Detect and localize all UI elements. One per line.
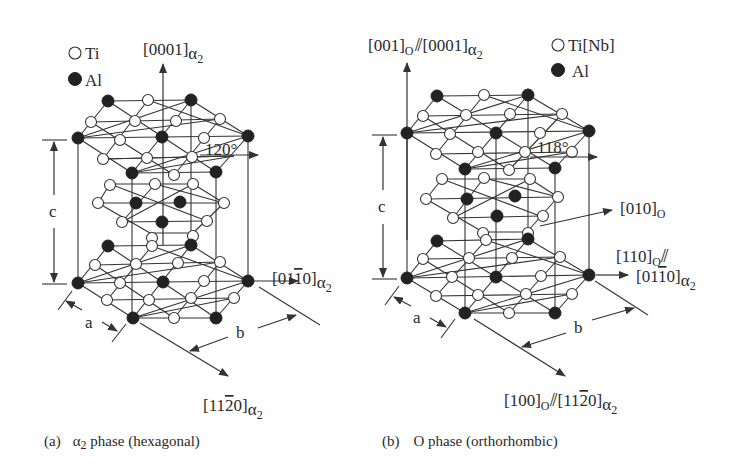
axis-100-label: [100]O⫽[1120]α2 bbox=[504, 391, 617, 417]
axis-001-label: [001]O⫽[0001]α2 bbox=[368, 36, 483, 62]
axis-010-label: [010]O bbox=[620, 199, 666, 221]
dimension-b-a: b bbox=[190, 287, 320, 351]
panel-b-o-orthorhombic: [001]O⫽[0001]α2 Ti[Nb] Al bbox=[368, 36, 696, 450]
dim-b-label: b bbox=[236, 323, 245, 342]
ti-legend-icon bbox=[69, 47, 81, 59]
legend-al-label: Al bbox=[85, 71, 102, 90]
axis-11-20-arrow bbox=[140, 323, 228, 376]
axis-01-10-label-b: [0110]α2 bbox=[636, 267, 696, 293]
legend-a: Ti Al bbox=[69, 44, 103, 90]
dim-a-label: a bbox=[85, 313, 93, 332]
dimension-a-a: a bbox=[58, 291, 126, 342]
dimension-b-b: b bbox=[522, 281, 648, 347]
middle-layer-b bbox=[421, 173, 564, 239]
axis-110-label: [110]O⫽ bbox=[616, 247, 669, 269]
dimension-a-b: a bbox=[385, 286, 455, 338]
ti-nb-legend-icon bbox=[552, 39, 564, 51]
dim-a-label-b: a bbox=[413, 308, 421, 327]
al-legend-icon bbox=[69, 73, 82, 86]
legend-b: Ti[Nb] Al bbox=[552, 36, 615, 81]
legend-ti-label: Ti bbox=[85, 44, 100, 63]
panel-a-alpha2-hexagonal: Ti Al [0001]α2 bbox=[42, 40, 332, 452]
axis-01-10-label: [0110]α2 bbox=[272, 269, 332, 295]
legend-al-label-b: Al bbox=[572, 62, 589, 81]
axis-010-arrow bbox=[540, 210, 612, 226]
bottom-layer-b bbox=[401, 233, 595, 319]
axis-11-20-label: [1120]α2 bbox=[203, 396, 263, 422]
al-legend-icon-b bbox=[552, 64, 565, 77]
axis-100-arrow bbox=[474, 319, 565, 376]
caption-b: (b)O phase (orthorhombic) bbox=[382, 433, 558, 450]
legend-ti-nb-label: Ti[Nb] bbox=[568, 36, 615, 55]
dim-c-label-b: c bbox=[378, 197, 386, 216]
dimension-c-b: c bbox=[372, 135, 397, 279]
top-layer-b bbox=[401, 89, 595, 176]
angle-120-label: 120° bbox=[205, 140, 237, 159]
middle-layer-a bbox=[93, 179, 230, 244]
axis-0001-label: [0001]α2 bbox=[143, 40, 203, 66]
dimension-c-a: c bbox=[42, 140, 67, 284]
bottom-layer-a bbox=[72, 239, 254, 324]
angle-118-label: 118° bbox=[537, 138, 569, 157]
dim-b-label-b: b bbox=[574, 318, 583, 337]
crystal-structure-figure: Ti Al [0001]α2 bbox=[0, 0, 748, 475]
caption-a: (a)α2 phase (hexagonal) bbox=[44, 433, 200, 452]
dim-c-label: c bbox=[49, 202, 57, 221]
